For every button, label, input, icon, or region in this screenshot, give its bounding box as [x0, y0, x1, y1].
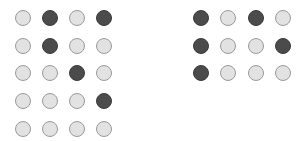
filled-circle-r2-c2	[69, 65, 85, 81]
right-dot-grid	[193, 10, 291, 81]
empty-circle-r4-c0	[15, 121, 31, 137]
empty-circle-r1-c1	[220, 38, 236, 54]
empty-circle-r0-c0	[15, 10, 31, 26]
empty-circle-r2-c1	[42, 65, 58, 81]
filled-circle-r3-c3	[96, 93, 112, 109]
empty-circle-r4-c2	[69, 121, 85, 137]
empty-circle-r4-c3	[96, 121, 112, 137]
filled-circle-r0-c2	[248, 10, 264, 26]
empty-circle-r4-c1	[42, 121, 58, 137]
empty-circle-r2-c2	[248, 65, 264, 81]
empty-circle-r2-c3	[275, 65, 291, 81]
filled-circle-r0-c3	[96, 10, 112, 26]
filled-circle-r1-c3	[275, 38, 291, 54]
filled-circle-r2-c0	[193, 65, 209, 81]
empty-circle-r1-c2	[69, 38, 85, 54]
empty-circle-r0-c3	[275, 10, 291, 26]
empty-circle-r2-c1	[220, 65, 236, 81]
empty-circle-r3-c0	[15, 93, 31, 109]
filled-circle-r0-c1	[42, 10, 58, 26]
left-dot-grid	[15, 10, 112, 137]
empty-circle-r0-c1	[220, 10, 236, 26]
empty-circle-r1-c0	[15, 38, 31, 54]
empty-circle-r0-c2	[69, 10, 85, 26]
filled-circle-r1-c1	[42, 38, 58, 54]
empty-circle-r2-c0	[15, 65, 31, 81]
empty-circle-r3-c1	[42, 93, 58, 109]
filled-circle-r1-c0	[193, 38, 209, 54]
empty-circle-r1-c2	[248, 38, 264, 54]
empty-circle-r3-c2	[69, 93, 85, 109]
empty-circle-r1-c3	[96, 38, 112, 54]
empty-circle-r2-c3	[96, 65, 112, 81]
filled-circle-r0-c0	[193, 10, 209, 26]
